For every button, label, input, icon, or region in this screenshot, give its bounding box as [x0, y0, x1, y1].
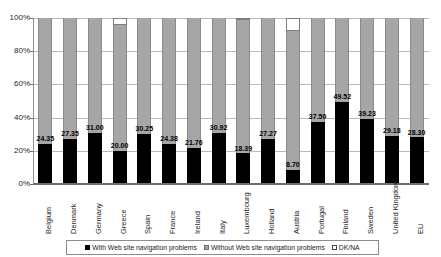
- x-tick-label: Austria: [293, 186, 301, 234]
- x-tick-label: Denmark: [70, 186, 78, 234]
- y-tick-label: 40%: [0, 114, 30, 122]
- x-label-slot: EU: [404, 186, 429, 234]
- segment-with-problems: [385, 136, 399, 184]
- gridline: [33, 184, 429, 185]
- legend-item[interactable]: Without Web site navigation problems: [204, 244, 325, 251]
- stacked-bar[interactable]: 28.30: [410, 18, 424, 184]
- x-label-slot: Sweden: [355, 186, 380, 234]
- x-tick-label: United Kingdom: [392, 186, 400, 234]
- stacked-bar[interactable]: 49.52: [335, 18, 349, 184]
- legend-key-with-problems: [85, 245, 90, 250]
- bar-slot[interactable]: 18.39: [236, 18, 250, 184]
- x-label-slot: France: [157, 186, 182, 234]
- x-tick-label: Spain: [144, 186, 152, 234]
- stacked-bar[interactable]: 37.50: [311, 18, 325, 184]
- bar-value-label: 39.23: [358, 110, 376, 117]
- segment-with-problems: [236, 153, 250, 184]
- x-label-slot: Holland: [256, 186, 281, 234]
- y-axis-line: [33, 18, 34, 184]
- segment-without-problems: [360, 18, 374, 119]
- x-tick-label: Portugal: [318, 186, 326, 234]
- stacked-bar[interactable]: 8.70: [286, 18, 300, 184]
- bar-value-label: 29.18: [383, 127, 401, 134]
- bar-slot[interactable]: 31.00: [88, 18, 102, 184]
- bar-value-label: 30.92: [210, 124, 228, 131]
- bar-slot[interactable]: 39.23: [360, 18, 374, 184]
- segment-without-problems: [311, 18, 325, 122]
- x-tick-label: Belgium: [45, 186, 53, 234]
- segment-dk-na: [113, 18, 127, 25]
- y-tick-label: 80%: [0, 47, 30, 55]
- segment-without-problems: [212, 18, 226, 133]
- bar-slot[interactable]: 27.35: [63, 18, 77, 184]
- bar-slot[interactable]: 20.00: [113, 18, 127, 184]
- bar-slot[interactable]: 49.52: [335, 18, 349, 184]
- segment-with-problems: [311, 122, 325, 184]
- segment-dk-na: [286, 18, 300, 31]
- y-tick-label: 60%: [0, 80, 30, 88]
- x-axis-line: [33, 183, 429, 184]
- bar-value-label: 21.76: [185, 139, 203, 146]
- bar-value-label: 31.00: [86, 124, 104, 131]
- chart-title-truncated: [22, 0, 222, 7]
- stacked-bar[interactable]: 18.39: [236, 18, 250, 184]
- bar-value-label: 49.52: [334, 93, 352, 100]
- plot-area: 24.3527.3531.0020.0030.2524.3821.7630.92…: [33, 18, 429, 184]
- segment-with-problems: [88, 133, 102, 184]
- x-label-slot: Luxembourg: [231, 186, 256, 234]
- stacked-bar[interactable]: 30.25: [137, 18, 151, 184]
- segment-with-problems: [137, 134, 151, 184]
- legend-label: Without Web site navigation problems: [211, 244, 325, 251]
- bar-slot[interactable]: 8.70: [286, 18, 300, 184]
- x-label-slot: Ireland: [182, 186, 207, 234]
- stacked-bar[interactable]: 39.23: [360, 18, 374, 184]
- segment-without-problems: [187, 18, 201, 148]
- bar-slot[interactable]: 30.92: [212, 18, 226, 184]
- stacked-bar[interactable]: 24.38: [162, 18, 176, 184]
- bar-slot[interactable]: 24.35: [38, 18, 52, 184]
- x-label-slot: Portugal: [305, 186, 330, 234]
- stacked-bar[interactable]: 27.27: [261, 18, 275, 184]
- stacked-bar[interactable]: 20.00: [113, 18, 127, 184]
- x-label-slot: Belgium: [33, 186, 58, 234]
- stacked-bar[interactable]: 27.35: [63, 18, 77, 184]
- bar-value-label: 27.35: [61, 130, 79, 137]
- bar-slot[interactable]: 37.50: [311, 18, 325, 184]
- segment-without-problems: [38, 18, 52, 144]
- bar-series-group: 24.3527.3531.0020.0030.2524.3821.7630.92…: [33, 18, 429, 184]
- bar-slot[interactable]: 29.18: [385, 18, 399, 184]
- x-tick-label: EU: [417, 186, 425, 234]
- stacked-bar[interactable]: 30.92: [212, 18, 226, 184]
- chart-page: 100%80%60%40%20%0% 24.3527.3531.0020.003…: [0, 0, 441, 257]
- segment-without-problems: [286, 31, 300, 169]
- y-tick-mark: [30, 18, 33, 19]
- stacked-bar[interactable]: 21.76: [187, 18, 201, 184]
- segment-with-problems: [162, 144, 176, 184]
- x-label-slot: Italy: [206, 186, 231, 234]
- stacked-bar[interactable]: 29.18: [385, 18, 399, 184]
- bar-slot[interactable]: 24.38: [162, 18, 176, 184]
- bar-slot[interactable]: 21.76: [187, 18, 201, 184]
- bar-value-label: 24.38: [160, 135, 178, 142]
- legend-item[interactable]: With Web site navigation problems: [85, 244, 197, 251]
- x-tick-label: France: [169, 186, 177, 234]
- bar-slot[interactable]: 30.25: [137, 18, 151, 184]
- segment-with-problems: [113, 151, 127, 184]
- y-tick-mark: [30, 118, 33, 119]
- y-tick-mark: [30, 151, 33, 152]
- segment-with-problems: [63, 139, 77, 184]
- x-label-slot: Austria: [281, 186, 306, 234]
- segment-with-problems: [360, 119, 374, 184]
- x-tick-label: Luxembourg: [243, 186, 251, 234]
- y-tick-label: 100%: [0, 14, 30, 22]
- legend-item[interactable]: DK/NA: [332, 244, 360, 251]
- segment-without-problems: [113, 25, 127, 151]
- bar-slot[interactable]: 28.30: [410, 18, 424, 184]
- stacked-bar[interactable]: 24.35: [38, 18, 52, 184]
- x-label-slot: Denmark: [58, 186, 83, 234]
- bar-slot[interactable]: 27.27: [261, 18, 275, 184]
- y-tick-mark: [30, 84, 33, 85]
- bar-value-label: 20.00: [111, 142, 129, 149]
- stacked-bar[interactable]: 31.00: [88, 18, 102, 184]
- y-tick-label: 20%: [0, 147, 30, 155]
